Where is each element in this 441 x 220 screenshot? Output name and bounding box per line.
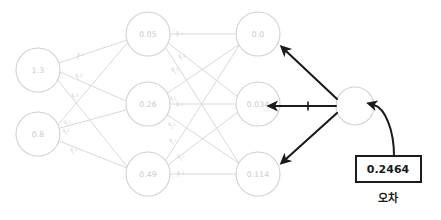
node-value-i2: 0.8	[32, 130, 45, 139]
node-value-h2: 0.26	[139, 100, 157, 109]
backprop-arrows	[275, 51, 337, 159]
node-h1[interactable]: 0.05	[126, 12, 170, 56]
node-value-o3: 0.114	[247, 170, 270, 179]
edge-label-i2-h3: 0.1	[70, 147, 77, 152]
node-h3[interactable]: 0.49	[126, 152, 170, 196]
node-value-o2: 0.034	[247, 100, 270, 109]
arrow-to-o1	[286, 51, 337, 99]
edge-i1-h1	[59, 40, 127, 63]
node-o1[interactable]: 0.0	[236, 12, 280, 56]
edge-label-h3-o1: 0.1	[169, 138, 176, 143]
edge-label-h2-o1: 0.1	[169, 96, 176, 101]
edge-label-h1-o2: 0.2	[178, 54, 185, 59]
arrow-to-o3	[286, 113, 337, 159]
loss-box-value: 0.2464	[367, 163, 410, 176]
node-o3[interactable]: 0.114	[236, 152, 280, 196]
node-value-o1: 0.0	[252, 30, 265, 39]
loss-callout-connector	[374, 105, 394, 156]
edge-label-h1-o1: 0.1	[176, 31, 183, 36]
edge-label-h2-o2: 0.1	[176, 102, 183, 107]
loss-node[interactable]	[336, 87, 374, 125]
edge-label-i1-h1: 0.1	[77, 52, 84, 57]
edge-i2-h1	[57, 42, 128, 126]
node-value-h3: 0.49	[139, 170, 157, 179]
edge-label-i1-h2: 0.2	[75, 73, 82, 78]
edge-label-h2-o3: 0.1	[168, 122, 175, 127]
edge-label-h3-o3: 0.1	[177, 171, 184, 176]
edge-label-i2-h1: 0.1	[63, 120, 70, 125]
loss-node-circle	[336, 87, 374, 125]
diagram-canvas: 0.10.20.30.10.20.10.10.20.30.10.10.10.10…	[0, 0, 441, 220]
edge-i1-h2	[60, 72, 126, 101]
node-value-i1: 1.3	[32, 66, 45, 75]
node-o2[interactable]: 0.034	[236, 82, 280, 126]
loss-box-caption: 오차	[378, 191, 399, 205]
network-diagram-svg: 0.10.20.30.10.20.10.10.20.30.10.10.10.10…	[0, 0, 441, 220]
edge-label-h1-o3: 0.3	[171, 67, 178, 72]
edge-label-h3-o2: 0.2	[177, 154, 184, 159]
node-i1[interactable]: 1.3	[16, 48, 60, 92]
edge-label-i2-h2: 0.2	[62, 128, 69, 133]
edge-label-i1-h3: 0.3	[71, 93, 78, 98]
edge-i2-h2	[60, 110, 126, 128]
loss-curve	[374, 105, 394, 156]
node-i2[interactable]: 0.8	[16, 112, 60, 156]
node-h2[interactable]: 0.26	[126, 82, 170, 126]
loss-value-box[interactable]: 0.2464 오차	[356, 156, 421, 205]
node-value-h1: 0.05	[139, 30, 157, 39]
